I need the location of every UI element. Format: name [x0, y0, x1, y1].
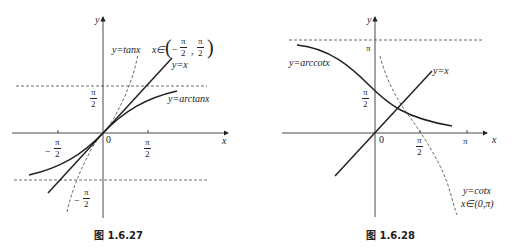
- x-axis-label: x: [222, 136, 226, 146]
- cot-domain: x∈(0,π): [461, 199, 494, 209]
- right-figure-axes: [282, 17, 487, 217]
- tan-domain-close: ): [207, 37, 214, 57]
- caption-left: 图 1.6.27: [94, 227, 143, 242]
- arctan-label: y=arctanx: [168, 94, 209, 104]
- y-tick-half-pi: π 2: [90, 88, 97, 109]
- x-tick-half-pi-right: π 2: [416, 136, 423, 157]
- y-tick-neg-half-pi: π 2: [83, 188, 90, 209]
- caption-right: 图 1.6.28: [366, 227, 415, 242]
- cot-label: y=cotx: [463, 186, 491, 196]
- x-axis-label-right: x: [492, 135, 496, 145]
- y-tick-pi: π: [366, 44, 371, 53]
- y-axis-label: y: [95, 15, 99, 25]
- tan-domain-neg: −: [172, 45, 178, 55]
- arccot-label: y=arccotx: [289, 58, 330, 68]
- x-tick-pi: π: [463, 137, 468, 146]
- tan-domain-prefix: x∈: [152, 45, 165, 55]
- identity-line-right: [335, 71, 432, 176]
- diagram-canvas: [0, 0, 512, 252]
- tan-domain-upper: π 2: [197, 37, 204, 58]
- identity-label-right: y=x: [433, 66, 449, 76]
- origin-label: 0: [106, 135, 111, 145]
- tan-domain-open: (: [165, 37, 172, 57]
- origin-label-right: 0: [379, 135, 384, 145]
- x-tick-half-pi: π 2: [144, 138, 151, 159]
- tan-domain-lower: π 2: [180, 37, 187, 58]
- tan-label: y=tanx: [112, 45, 140, 55]
- y-tick-neg-sign: −: [74, 196, 80, 206]
- identity-label-left: y=x: [172, 60, 188, 70]
- y-axis-label-right: y: [367, 15, 371, 25]
- y-tick-half-pi-right: π 2: [362, 88, 369, 109]
- x-tick-neg-sign: −: [45, 147, 51, 157]
- x-tick-neg-half-pi: π 2: [54, 138, 61, 159]
- tan-domain-sep: ,: [191, 46, 194, 56]
